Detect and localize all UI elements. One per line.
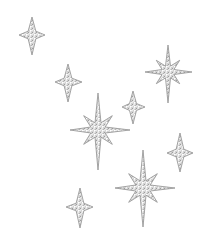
sparkle-stars-canvas [0,0,210,247]
sparkle-star-a-icon [19,17,45,55]
sparkle-star-d-icon [122,91,145,124]
stars-group [19,17,193,228]
sparkle-star-c-icon [70,93,130,170]
sparkle-star-f-icon [167,133,193,172]
sparkle-star-e-icon [145,45,192,103]
sparkle-star-g-icon [115,150,175,227]
sparkle-star-h-icon [66,188,93,228]
sparkle-star-b-icon [55,64,82,102]
